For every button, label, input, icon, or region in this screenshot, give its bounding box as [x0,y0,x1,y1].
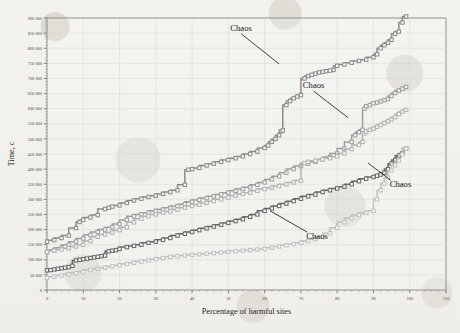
data-point-marker [74,245,77,248]
data-point-marker [190,253,193,256]
data-point-marker [241,218,244,221]
data-point-marker [357,180,360,183]
data-point-marker [379,47,382,50]
x-tick-label: 20 [117,296,122,301]
data-point-marker [107,206,110,209]
data-point-marker [63,266,66,269]
data-point-marker [45,276,48,279]
data-point-marker [96,235,99,238]
data-point-marker [183,232,186,235]
y-axis-label: Time, c [7,141,16,166]
data-point-marker [82,243,85,246]
data-point-marker [140,260,143,263]
data-point-marker [190,204,193,207]
data-point-marker [350,140,353,143]
data-point-marker [53,249,56,252]
data-point-marker [169,210,172,213]
data-point-marker [111,231,114,234]
data-point-marker [314,193,317,196]
data-point-marker [198,203,201,206]
data-point-marker [401,21,404,24]
y-tick-label: 100 000 [28,257,43,262]
data-point-marker [248,186,251,189]
data-point-marker [212,225,215,228]
data-point-marker [198,166,201,169]
data-point-marker [288,99,291,102]
data-point-marker [125,218,128,221]
annotation-label: Chaos [230,23,252,33]
data-point-marker [375,53,378,56]
data-point-marker [154,213,157,216]
data-point-marker [350,216,353,219]
data-point-marker [89,256,92,259]
data-point-marker [205,201,208,204]
data-point-marker [107,250,110,253]
data-point-marker [401,87,404,90]
data-point-marker [375,174,378,177]
data-point-marker [125,201,128,204]
data-point-marker [335,64,338,67]
x-axis-label: Percentage of harmful sites [202,307,291,316]
data-point-marker [404,147,407,150]
data-point-marker [132,215,135,218]
data-point-marker [397,159,400,162]
data-point-marker [74,271,77,274]
data-point-marker [190,200,193,203]
data-point-marker [386,97,389,100]
data-point-marker [82,237,85,240]
data-point-marker [219,160,222,163]
data-point-marker [263,247,266,250]
data-point-marker [328,189,331,192]
data-point-marker [285,244,288,247]
annotation-label: Chaos [306,231,328,241]
data-point-marker [248,191,251,194]
data-point-marker [335,155,338,158]
y-tick-label: 850 000 [28,31,43,36]
data-point-marker [394,32,397,35]
data-point-marker [234,250,237,253]
data-point-marker [183,183,186,186]
data-point-marker [248,215,251,218]
y-tick-label: 700 000 [28,76,43,81]
data-point-marker [111,225,114,228]
data-point-marker [350,183,353,186]
data-point-marker [241,192,244,195]
data-point-marker [82,218,85,221]
data-point-marker [187,168,190,171]
y-tick-label: 450 000 [28,152,43,157]
data-point-marker [227,221,230,224]
data-point-marker [132,261,135,264]
data-point-marker [60,236,63,239]
data-point-marker [343,185,346,188]
data-point-marker [306,160,309,163]
data-point-marker [401,153,404,156]
data-point-marker [357,143,360,146]
data-point-marker [74,226,77,229]
data-point-marker [241,187,244,190]
data-point-marker [234,157,237,160]
data-point-marker [132,199,135,202]
data-point-marker [372,175,375,178]
data-point-marker [183,254,186,257]
data-point-marker [53,275,56,278]
data-point-marker [328,231,331,234]
data-point-marker [397,89,400,92]
data-point-marker [404,108,407,111]
data-point-marker [321,158,324,161]
data-point-marker [397,30,400,33]
data-point-marker [161,211,164,214]
data-point-marker [314,72,317,75]
data-point-marker [147,195,150,198]
data-point-marker [111,265,114,268]
data-point-marker [328,157,331,160]
data-point-marker [285,171,288,174]
data-point-marker [375,101,378,104]
data-point-marker [277,134,280,137]
data-point-marker [335,187,338,190]
data-point-marker [45,269,48,272]
data-point-marker [397,112,400,115]
data-point-marker [248,152,251,155]
data-point-marker [404,85,407,88]
data-point-marker [92,256,95,259]
data-point-marker [263,181,266,184]
